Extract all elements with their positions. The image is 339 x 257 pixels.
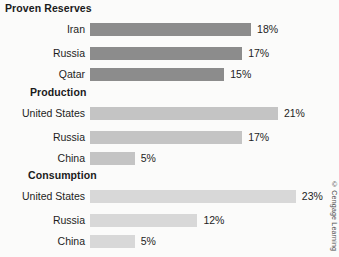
category-label: China [0, 151, 85, 166]
bar-row: China5% [0, 151, 339, 166]
bar [90, 47, 242, 60]
bar-row: Iran18% [0, 22, 339, 37]
bar-row: China5% [0, 234, 339, 249]
bar-row: Russia12% [0, 213, 339, 228]
bar [90, 190, 296, 203]
bar-row: United States21% [0, 106, 339, 121]
category-label: United States [0, 189, 85, 204]
category-label: China [0, 234, 85, 249]
bar-value-label: 17% [248, 46, 269, 61]
bar-value-label: 12% [203, 213, 224, 228]
copyright-credit: © Cengage Learning [331, 181, 338, 251]
category-label: Russia [0, 130, 85, 145]
bar-row: United States23% [0, 189, 339, 204]
bar [90, 68, 224, 81]
category-label: Iran [0, 22, 85, 37]
bar [90, 152, 135, 165]
bar-value-label: 17% [248, 130, 269, 145]
category-label: Russia [0, 213, 85, 228]
bar-row: Qatar15% [0, 67, 339, 82]
group-title: Proven Reserves [5, 2, 92, 14]
bar-value-label: 5% [141, 234, 156, 249]
bar [90, 23, 251, 36]
bar-row: Russia17% [0, 46, 339, 61]
category-label: United States [0, 106, 85, 121]
bar-value-label: 18% [257, 22, 278, 37]
bar-value-label: 23% [302, 189, 323, 204]
bar-value-label: 5% [141, 151, 156, 166]
bar-value-label: 21% [284, 106, 305, 121]
bar [90, 107, 278, 120]
category-label: Qatar [0, 67, 85, 82]
grouped-bar-chart: Proven ReservesIran18%Russia17%Qatar15%P… [0, 0, 339, 257]
category-label: Russia [0, 46, 85, 61]
bar [90, 235, 135, 248]
bar [90, 214, 197, 227]
bar-value-label: 15% [230, 67, 251, 82]
group-title: Production [30, 86, 86, 98]
bar [90, 131, 242, 144]
group-title: Consumption [28, 169, 97, 181]
bar-row: Russia17% [0, 130, 339, 145]
